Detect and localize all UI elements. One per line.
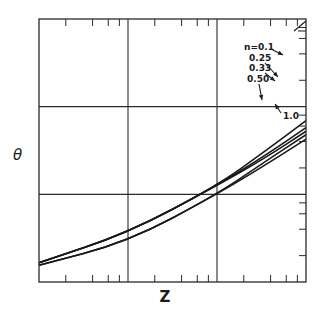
chart: n=0.10.250.330.501.0 θ Z	[0, 0, 321, 316]
curve-layer	[39, 121, 306, 266]
curve-label-0.50: 0.50	[247, 74, 269, 84]
arrowhead-icon	[275, 104, 280, 109]
annotation-layer: n=0.10.250.330.501.0	[244, 21, 306, 121]
curve-label-0.1: n=0.1	[244, 42, 274, 52]
curve-n-0.1	[39, 121, 306, 263]
curve-label-1.0: 1.0	[283, 111, 299, 121]
curve-n-1.0	[39, 139, 306, 265]
curve-n-0.25	[39, 128, 306, 263]
curve-label-0.33: 0.33	[249, 63, 271, 73]
curve-label-0.25: 0.25	[249, 53, 271, 63]
x-axis-label: Z	[160, 288, 171, 306]
corner-bracket	[294, 21, 306, 31]
y-axis-label: θ	[13, 146, 22, 164]
arrowhead-icon	[259, 95, 263, 100]
